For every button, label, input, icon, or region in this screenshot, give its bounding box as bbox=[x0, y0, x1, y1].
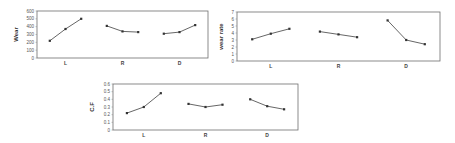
data-point-marker bbox=[80, 18, 82, 20]
data-point-marker bbox=[266, 105, 268, 107]
x-category-label: D bbox=[178, 60, 182, 66]
plot-frame bbox=[37, 11, 208, 58]
main-effects-plots: 0100200300400500600WearLRD 01234567wear … bbox=[0, 0, 455, 143]
y-tick-label: 0.6 bbox=[104, 82, 111, 87]
y-axis-label: Wear bbox=[13, 27, 19, 42]
x-category-label: D bbox=[265, 132, 269, 138]
data-point-marker bbox=[204, 106, 206, 108]
x-category-label: L bbox=[64, 60, 67, 66]
data-point-marker bbox=[221, 104, 223, 106]
y-tick-label: 100 bbox=[26, 48, 34, 53]
data-point-marker bbox=[337, 33, 339, 35]
data-point-marker bbox=[356, 36, 358, 38]
data-point-marker bbox=[387, 19, 389, 21]
data-point-marker bbox=[194, 24, 196, 26]
y-tick-label: 1 bbox=[231, 52, 234, 57]
data-point-marker bbox=[137, 31, 139, 33]
y-tick-label: 0 bbox=[31, 56, 34, 61]
data-point-marker bbox=[249, 98, 251, 100]
y-tick-label: 0 bbox=[107, 128, 110, 133]
x-category-label: D bbox=[404, 63, 408, 69]
data-point-marker bbox=[143, 106, 145, 108]
y-tick-label: 5 bbox=[231, 24, 234, 29]
y-tick-label: 600 bbox=[26, 9, 34, 14]
data-point-marker bbox=[49, 40, 51, 42]
data-point-marker bbox=[319, 31, 321, 33]
data-point-marker bbox=[288, 28, 290, 30]
data-point-marker bbox=[121, 30, 123, 32]
y-axis-label: C.F bbox=[89, 102, 95, 112]
plot-frame bbox=[237, 12, 440, 61]
y-tick-label: 300 bbox=[26, 32, 34, 37]
y-axis-label: wear rate bbox=[218, 23, 224, 51]
data-point-marker bbox=[106, 25, 108, 27]
y-tick-label: 400 bbox=[26, 24, 34, 29]
x-category-label: L bbox=[269, 63, 272, 69]
data-point-marker bbox=[405, 39, 407, 41]
y-tick-label: 6 bbox=[231, 17, 234, 22]
data-point-marker bbox=[178, 31, 180, 33]
x-category-label: L bbox=[142, 132, 145, 138]
data-point-marker bbox=[160, 92, 162, 94]
x-category-label: R bbox=[121, 60, 125, 66]
data-point-marker bbox=[270, 33, 272, 35]
x-category-label: R bbox=[337, 63, 341, 69]
y-tick-label: 0.3 bbox=[104, 105, 111, 110]
y-tick-label: 7 bbox=[231, 10, 234, 15]
data-point-marker bbox=[283, 108, 285, 110]
y-tick-label: 0.5 bbox=[104, 89, 111, 94]
wear-rate-chart: 01234567wear rateLRD bbox=[218, 10, 440, 69]
x-category-label: R bbox=[204, 132, 208, 138]
y-tick-label: 0.4 bbox=[104, 97, 111, 102]
y-tick-label: 500 bbox=[26, 16, 34, 21]
data-point-marker bbox=[163, 33, 165, 35]
data-point-marker bbox=[187, 103, 189, 105]
y-tick-label: 200 bbox=[26, 40, 34, 45]
cf-chart: 00.10.20.30.40.50.6C.FLRD bbox=[89, 82, 298, 138]
y-tick-label: 4 bbox=[231, 31, 234, 36]
y-tick-label: 3 bbox=[231, 38, 234, 43]
y-tick-label: 0 bbox=[231, 59, 234, 64]
data-point-marker bbox=[126, 112, 128, 114]
y-tick-label: 2 bbox=[231, 45, 234, 50]
y-tick-label: 0.2 bbox=[104, 112, 111, 117]
y-tick-label: 0.1 bbox=[104, 120, 111, 125]
data-point-marker bbox=[424, 43, 426, 45]
wear-chart: 0100200300400500600WearLRD bbox=[13, 9, 208, 66]
data-point-marker bbox=[64, 28, 66, 30]
data-point-marker bbox=[251, 38, 253, 40]
